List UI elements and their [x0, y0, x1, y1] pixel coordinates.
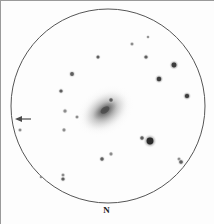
star-10 [64, 110, 67, 113]
star-13 [63, 129, 66, 132]
star-22 [61, 177, 64, 180]
star-15 [147, 138, 154, 145]
star-8 [185, 94, 189, 98]
star-18 [100, 157, 103, 160]
eyepiece-sketch-canvas [1, 1, 214, 224]
star-7 [59, 89, 62, 92]
star-3 [144, 55, 147, 58]
star-12 [19, 129, 22, 132]
sketch-frame: N [0, 0, 214, 224]
star-4 [172, 63, 177, 68]
star-11 [76, 116, 79, 119]
star-0 [147, 36, 149, 38]
star-6 [157, 77, 161, 81]
star-21 [40, 176, 42, 178]
star-2 [97, 56, 100, 59]
star-5 [70, 72, 74, 76]
star-9 [109, 98, 112, 101]
star-1 [131, 43, 134, 46]
star-19 [179, 160, 183, 164]
north-direction-label: N [1, 205, 212, 215]
star-17 [110, 153, 113, 156]
